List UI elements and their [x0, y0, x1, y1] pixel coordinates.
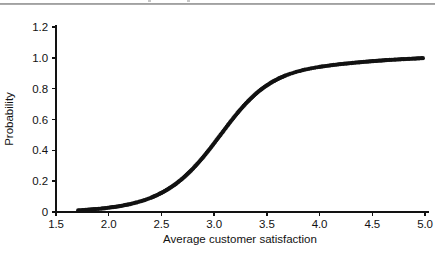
x-tick-label: 3.0 [206, 218, 222, 230]
data-point [421, 56, 425, 60]
x-tick-label: 4.0 [312, 218, 328, 230]
figure-container: 00.20.40.60.81.01.2 1.52.02.53.03.54.04.… [0, 0, 435, 254]
y-tick-label: 0.4 [0, 144, 48, 156]
y-tick-label: 1.2 [0, 21, 48, 33]
y-tick-label: 0 [0, 206, 48, 218]
x-tick-label: 5.0 [417, 218, 433, 230]
x-tick-label: 2.5 [154, 218, 170, 230]
y-tick-label: 0.2 [0, 175, 48, 187]
x-tick-label: 2.0 [101, 218, 117, 230]
x-axis-title: Average customer satisfaction [163, 233, 317, 245]
axis-lines [56, 25, 429, 212]
y-tick-label: 1.0 [0, 52, 48, 64]
data-point-series [76, 56, 425, 213]
scatter-plot-canvas [0, 0, 435, 254]
y-axis-title: Probability [3, 92, 15, 146]
x-tick-label: 4.5 [364, 218, 380, 230]
x-tick-label: 1.5 [48, 218, 64, 230]
axis-tick-marks [52, 27, 425, 216]
x-tick-label: 3.5 [259, 218, 275, 230]
